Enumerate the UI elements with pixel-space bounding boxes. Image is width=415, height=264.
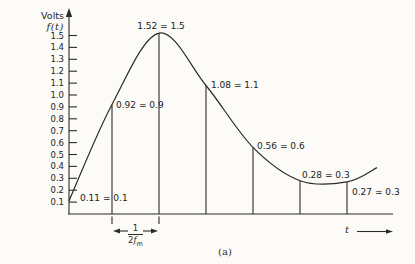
sample-value-label: 1.52 ≃ 1.5 — [137, 21, 185, 31]
sample-value-label: 0.28 ≃ 0.3 — [302, 170, 350, 180]
t-arrow-head-icon — [386, 229, 393, 234]
y-tick-label: 0.7 — [50, 126, 64, 136]
fraction-denominator: 2fm — [122, 235, 149, 249]
sample-value-label: 0.11 ≃ 0.1 — [80, 193, 128, 203]
y-tick-label: 1.3 — [50, 54, 64, 64]
sampling-interval-fraction: 1 2fm — [122, 224, 149, 249]
sample-value-label: 1.08 ≃ 1.1 — [211, 80, 259, 90]
y-axis-arrowhead-icon — [66, 8, 72, 17]
y-axis-unit-label: Volts — [18, 11, 64, 21]
y-tick-label: 0.8 — [50, 114, 64, 124]
y-tick-label: 0.1 — [50, 197, 64, 207]
y-tick-label: 0.4 — [50, 161, 64, 171]
sample-value-label: 0.92 ≃ 0.9 — [116, 100, 164, 110]
y-tick-label: 1.4 — [50, 42, 64, 52]
sample-value-label: 0.27 ≃ 0.3 — [352, 187, 400, 197]
sample-value-label: 0.56 ≃ 0.6 — [257, 141, 305, 151]
waveform-chart-canvas: 0.10.20.30.40.50.60.70.80.91.01.11.21.31… — [0, 0, 415, 264]
y-tick-label: 0.3 — [50, 173, 64, 183]
y-tick-label: 0.9 — [50, 102, 64, 112]
y-tick-label: 1.2 — [50, 66, 64, 76]
y-tick-label: 0.6 — [50, 138, 64, 148]
y-tick-label: 0.5 — [50, 150, 64, 160]
y-tick-label: 0.2 — [50, 185, 64, 195]
y-tick-label: 1.0 — [50, 90, 64, 100]
y-axis-function-label: f(t) — [18, 21, 64, 33]
y-axis-title: Volts f(t) — [18, 11, 64, 33]
y-tick-label: 1.1 — [50, 78, 64, 88]
denominator-subscript: m — [137, 240, 143, 248]
interval-arrow-left-head-icon — [113, 229, 120, 234]
fraction-numerator: 1 — [122, 224, 149, 233]
x-axis-label: t — [345, 224, 349, 235]
figure-caption: (a) — [206, 246, 244, 257]
interval-arrow-right-head-icon — [151, 229, 158, 234]
sampled-signal-figure: 0.10.20.30.40.50.60.70.80.91.01.11.21.31… — [0, 0, 415, 264]
